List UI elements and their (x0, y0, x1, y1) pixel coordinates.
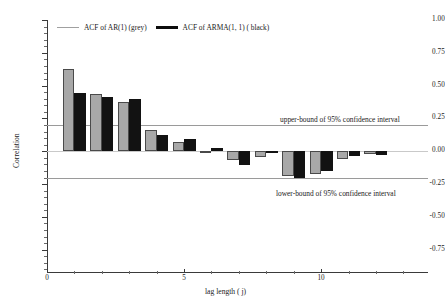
x-tick-major (321, 269, 322, 273)
legend-item-arma11: ACF of ARMA(1, 1) ( black) (156, 24, 270, 31)
y-tick-label: 1.00 (405, 16, 445, 23)
legend-label-arma11: ACF of ARMA(1, 1) ( black) (183, 24, 270, 31)
bar-ar1-lag11 (337, 151, 349, 159)
y-tick-minor (44, 99, 47, 100)
x-tick-minor (102, 271, 103, 274)
bar-arma11-lag4 (157, 135, 169, 151)
y-tick-minor (44, 138, 47, 139)
y-tick-label: -0.75 (405, 246, 445, 253)
y-tick-major (42, 217, 47, 218)
bar-ar1-lag5 (173, 142, 185, 151)
x-tick-minor (239, 271, 240, 274)
y-tick-label: -0.50 (405, 213, 445, 220)
x-tick-minor (294, 271, 295, 274)
y-tick-minor (44, 46, 47, 47)
y-tick-minor (44, 237, 47, 238)
y-tick-major (42, 184, 47, 185)
y-tick-minor (44, 59, 47, 60)
bar-ar1-lag4 (145, 130, 157, 152)
y-tick-minor (44, 73, 47, 74)
y-tick-major (42, 20, 47, 21)
y-tick-minor (44, 145, 47, 146)
x-tick-minor (129, 271, 130, 274)
y-axis-title: Correlation (12, 133, 21, 168)
lower-ci-annotation: lower-bound of 95% confidence interval (276, 189, 396, 198)
y-tick-minor (44, 33, 47, 34)
x-tick-minor (211, 271, 212, 274)
y-tick-minor (44, 158, 47, 159)
y-tick-minor (44, 204, 47, 205)
x-tick-label: 0 (35, 275, 59, 282)
bar-ar1-lag2 (90, 94, 102, 151)
acf-chart: 1.000.750.500.250.00-0.25-0.50-0.75 0510… (0, 0, 445, 304)
grey-line-swatch-icon (57, 27, 79, 28)
bar-arma11-lag1 (74, 93, 86, 151)
x-tick-minor (376, 271, 377, 274)
bar-ar1-lag9 (282, 151, 294, 176)
y-tick-minor (44, 263, 47, 264)
x-axis-title: lag length ( j) (205, 287, 246, 296)
bar-ar1-lag12 (364, 151, 376, 154)
x-tick-label: 5 (172, 275, 196, 282)
bar-ar1-lag8 (255, 151, 267, 157)
bar-arma11-lag6 (211, 148, 223, 151)
y-tick-major (42, 250, 47, 251)
y-tick-minor (44, 79, 47, 80)
y-tick-minor (44, 230, 47, 231)
legend-label-ar1: ACF of AR(1) (grey) (84, 24, 147, 31)
bar-arma11-lag5 (184, 139, 196, 151)
reference-line-lower-ci (47, 178, 428, 179)
y-tick-minor (44, 132, 47, 133)
y-axis-line (47, 20, 48, 272)
y-tick-minor (44, 40, 47, 41)
y-tick-major (42, 53, 47, 54)
y-tick-minor (44, 223, 47, 224)
bar-arma11-lag8 (266, 151, 278, 153)
chart-legend: ACF of AR(1) (grey) ACF of ARMA(1, 1) ( … (57, 24, 269, 31)
y-tick-label: -0.25 (405, 180, 445, 187)
x-axis-line (47, 272, 428, 273)
y-tick-label: 0.50 (405, 82, 445, 89)
y-tick-minor (44, 256, 47, 257)
bar-arma11-lag11 (349, 151, 361, 156)
y-tick-minor (44, 105, 47, 106)
y-tick-minor (44, 210, 47, 211)
x-tick-minor (349, 271, 350, 274)
y-tick-label: 0.75 (405, 49, 445, 56)
bar-ar1-lag10 (310, 151, 322, 173)
y-tick-minor (44, 27, 47, 28)
bar-arma11-lag3 (129, 99, 141, 151)
y-tick-major (42, 86, 47, 87)
bar-ar1-lag7 (227, 151, 239, 160)
y-tick-minor (44, 92, 47, 93)
x-tick-label: 10 (309, 275, 333, 282)
bar-arma11-lag10 (321, 151, 333, 171)
bar-arma11-lag2 (102, 97, 114, 151)
x-tick-minor (157, 271, 158, 274)
legend-item-ar1: ACF of AR(1) (grey) (57, 24, 147, 31)
y-tick-minor (44, 164, 47, 165)
bar-arma11-lag7 (239, 151, 251, 165)
x-tick-major (47, 269, 48, 273)
y-tick-minor (44, 197, 47, 198)
x-tick-major (184, 269, 185, 273)
y-tick-minor (44, 112, 47, 113)
upper-ci-annotation: upper-bound of 95% confidence interval (280, 115, 400, 124)
y-tick-label: 0.25 (405, 114, 445, 121)
x-tick-minor (266, 271, 267, 274)
x-tick-minor (403, 271, 404, 274)
bar-arma11-lag12 (376, 151, 388, 154)
y-tick-minor (44, 171, 47, 172)
y-tick-minor (44, 243, 47, 244)
y-tick-minor (44, 191, 47, 192)
y-tick-major (42, 118, 47, 119)
black-line-swatch-icon (156, 26, 178, 29)
bar-arma11-lag9 (294, 151, 306, 177)
bar-ar1-lag1 (63, 69, 75, 151)
y-tick-minor (44, 66, 47, 67)
x-tick-minor (74, 271, 75, 274)
bar-ar1-lag6 (200, 151, 212, 153)
bar-ar1-lag3 (118, 102, 130, 151)
